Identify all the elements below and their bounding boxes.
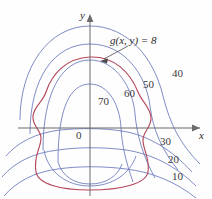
constraint-label-g: g(x, y) = 8 — [110, 35, 157, 46]
contour-curve-10 — [4, 167, 196, 198]
contour-label-30: 30 — [160, 136, 171, 147]
contour-curve-60 — [43, 60, 155, 178]
contour-plot-figure: g(x, y) = 8 y x 0 70 60 50 40 30 20 10 — [0, 0, 212, 199]
contour-label-60: 60 — [124, 88, 135, 99]
origin-label: 0 — [76, 130, 82, 141]
callout-leader-line — [104, 46, 128, 59]
contour-curve-group — [2, 26, 200, 198]
y-axis-label: y — [80, 10, 85, 21]
contour-label-20: 20 — [168, 154, 179, 165]
contour-label-50: 50 — [143, 79, 154, 90]
x-axis-label: x — [199, 130, 204, 141]
y-axis-arrowhead — [87, 14, 94, 22]
contour-label-70: 70 — [98, 96, 109, 107]
contour-label-10: 10 — [172, 171, 183, 182]
contour-label-40: 40 — [172, 68, 183, 79]
callout-leader-group — [100, 46, 128, 64]
